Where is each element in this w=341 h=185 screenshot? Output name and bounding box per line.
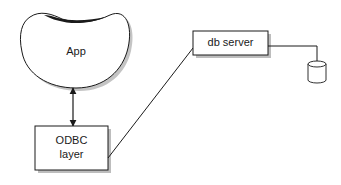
app-label: App	[46, 45, 106, 58]
db-server-label: db server	[193, 36, 268, 49]
odbc-label-line2: layer	[35, 148, 108, 161]
odbc-label-line1: ODBC	[35, 134, 108, 147]
dbserver-database-line	[268, 46, 317, 62]
database-cylinder-icon[interactable]	[308, 61, 326, 83]
